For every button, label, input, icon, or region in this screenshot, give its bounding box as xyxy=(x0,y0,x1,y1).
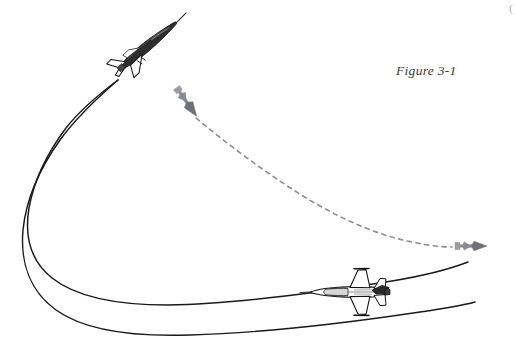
lower-aircraft-exhaust xyxy=(385,289,390,295)
figure-caption: Figure 3-1 xyxy=(396,63,457,79)
right-missile-nose-icon xyxy=(472,241,488,251)
lower-aircraft-canopy xyxy=(324,288,348,295)
lower-aircraft-nose-probe xyxy=(300,292,310,293)
missile-trajectory-dashed-path xyxy=(196,118,452,247)
page-corner-mark: ( xyxy=(509,2,513,14)
right-missile xyxy=(455,241,487,251)
figure-illustration xyxy=(0,0,515,340)
upper-aircraft-fuselage xyxy=(120,20,179,69)
flight-path-group xyxy=(23,80,475,335)
lower-aircraft xyxy=(300,268,390,315)
lower-aircraft-wing-upper xyxy=(350,270,370,288)
missile-trajectory-group xyxy=(196,118,452,247)
right-missile-tail-fins xyxy=(455,242,460,250)
upper-aircraft xyxy=(106,5,198,85)
lower-aircraft-wing-lower xyxy=(350,296,370,314)
figure-page: Figure 3-1 ( xyxy=(0,0,515,340)
upper-missile xyxy=(172,85,201,120)
right-missile-mid-fins xyxy=(463,242,472,250)
flight-path-outer-curve xyxy=(28,80,468,305)
lower-aircraft-stabilizer-lower xyxy=(374,295,386,306)
